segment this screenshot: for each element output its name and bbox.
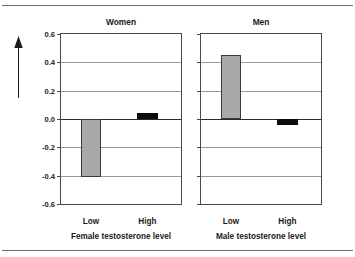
ytick-label-neg0.4: -0.4 <box>42 171 55 180</box>
bar-men-high <box>277 119 297 125</box>
ytick-mark-0.6 <box>57 34 61 35</box>
xcat-men-high: High <box>278 217 296 226</box>
xaxis-title-men: Male testosterone level <box>216 232 306 241</box>
ytick-mark-neg0.2 <box>197 147 201 148</box>
xcat-women-low: Low <box>83 217 99 226</box>
ytick-label-0.2: 0.2 <box>44 86 55 95</box>
gridline-0.4 <box>201 62 321 63</box>
ytick-mark-neg0.4 <box>197 176 201 177</box>
gridline-neg0.2 <box>61 147 181 148</box>
panel-women: Women 0.6 0.4 0.2 0.0 -0.2 -0.4 -0.6 <box>60 33 182 205</box>
y-axis-label-group: Spatial ability scores <box>4 34 28 209</box>
gridline-neg0.2 <box>201 147 321 148</box>
ytick-mark-0.4 <box>57 62 61 63</box>
ytick-mark-0.0 <box>57 119 61 120</box>
ytick-mark-0.2 <box>57 91 61 92</box>
ytick-mark-neg0.6 <box>57 204 61 205</box>
top-divider-rule <box>2 5 353 6</box>
gridline-0.2 <box>61 91 181 92</box>
gridline-0.2 <box>201 91 321 92</box>
panel-women-title: Women <box>61 17 181 27</box>
ytick-label-0.0: 0.0 <box>44 115 55 124</box>
gridline-neg0.4 <box>201 176 321 177</box>
xcat-women-high: High <box>138 217 156 226</box>
ytick-mark-0.2 <box>197 91 201 92</box>
ytick-label-0.6: 0.6 <box>44 30 55 39</box>
bar-men-low <box>221 55 241 119</box>
panel-women-plot-area: 0.6 0.4 0.2 0.0 -0.2 -0.4 -0.6 <box>61 34 181 204</box>
ytick-label-0.4: 0.4 <box>44 58 55 67</box>
ytick-label-neg0.6: -0.6 <box>42 200 55 209</box>
ytick-label-neg0.2: -0.2 <box>42 143 55 152</box>
panel-men: Men Low High Male testosterone level <box>200 33 322 205</box>
panel-men-plot-area <box>201 34 321 204</box>
gridline-0.4 <box>61 62 181 63</box>
ytick-mark-0.4 <box>197 62 201 63</box>
xcat-men-low: Low <box>223 217 239 226</box>
ytick-mark-0.6 <box>197 34 201 35</box>
gridline-neg0.4 <box>61 176 181 177</box>
ytick-mark-neg0.2 <box>57 147 61 148</box>
gridline-zero <box>201 119 321 120</box>
bar-women-high <box>137 113 157 119</box>
panel-men-title: Men <box>201 17 321 27</box>
xaxis-title-women: Female testosterone level <box>71 232 171 241</box>
ytick-mark-neg0.4 <box>57 176 61 177</box>
ytick-mark-neg0.6 <box>197 204 201 205</box>
bar-women-low <box>81 119 101 177</box>
figure-container: Spatial ability scores Women 0.6 0.4 0.2… <box>0 0 355 257</box>
gridline-zero <box>61 119 181 120</box>
bottom-divider-rule <box>2 250 353 251</box>
ytick-mark-0.0 <box>197 119 201 120</box>
